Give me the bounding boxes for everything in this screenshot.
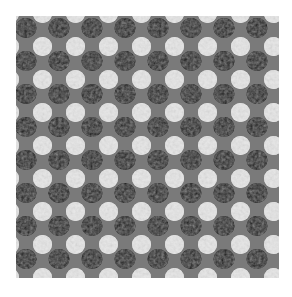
knitted-fabric-swatch bbox=[16, 16, 279, 278]
fabric-pattern bbox=[16, 16, 279, 278]
